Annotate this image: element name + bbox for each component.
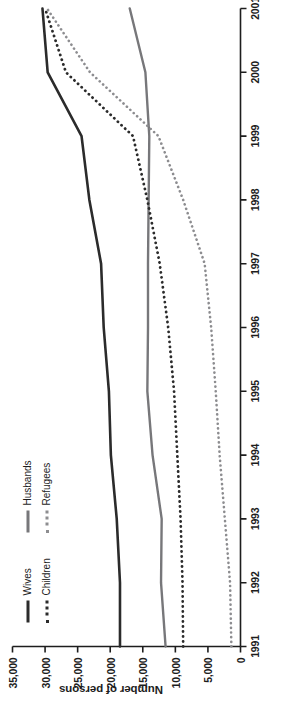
x-tick-label: 2000 <box>248 61 260 84</box>
x-tick-label: 1994 <box>248 443 260 466</box>
line-solid-gray-icon <box>26 510 29 532</box>
legend-entry-wives: Wives <box>22 558 32 622</box>
legend-column-1: Wives Children <box>22 558 60 622</box>
x-tick-label: 1992 <box>248 571 260 594</box>
x-tick-label: 1995 <box>248 380 260 403</box>
legend-entry-husbands: Husbands <box>22 460 32 532</box>
figure-wrapper: 05,00010,00015,00020,00025,00030,00035,0… <box>0 0 285 708</box>
legend-entry-children: Children <box>41 558 51 622</box>
legend-label-wives: Wives <box>22 568 32 595</box>
legend-label-husbands: Husbands <box>22 460 32 505</box>
line-dotted-gray-icon <box>45 510 48 532</box>
x-tick-label: 1996 <box>248 316 260 339</box>
series-line-husbands <box>129 8 165 646</box>
legend-entry-refugees: Refugees <box>41 460 51 532</box>
line-chart-figure: 05,00010,00015,00020,00025,00030,00035,0… <box>0 0 285 708</box>
x-tick-label: 1998 <box>248 188 260 211</box>
line-dotted-dark-icon <box>45 600 48 622</box>
legend-label-refugees: Refugees <box>41 462 51 505</box>
legend-column-2: Husbands Refugees <box>22 460 60 532</box>
plot-area: 05,00010,00015,00020,00025,00030,00035,0… <box>0 0 285 708</box>
x-tick-label: 1993 <box>248 507 260 530</box>
x-tick-label: 1999 <box>248 124 260 147</box>
line-solid-dark-icon <box>26 600 29 622</box>
x-tick-label: 1991 <box>248 635 260 658</box>
x-tick-label: 1997 <box>248 252 260 275</box>
series-line-wives <box>42 8 120 646</box>
x-tick-label: 2001 <box>248 0 260 19</box>
legend-label-children: Children <box>41 558 51 595</box>
y-axis-title: Number of persons <box>0 680 253 698</box>
series-line-refugees <box>47 8 231 646</box>
